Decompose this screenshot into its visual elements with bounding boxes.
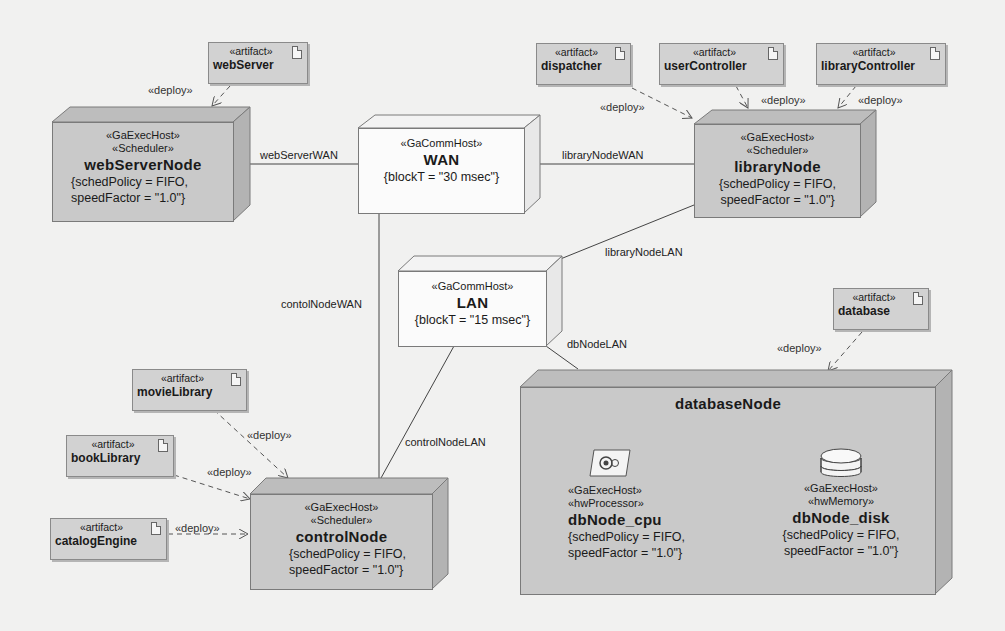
node-prop: {blockT = "30 msec"} [359, 169, 524, 185]
deploy-webServer [212, 86, 230, 106]
artifact-stereotype: «artifact» [664, 46, 779, 59]
stereotype: «GaExecHost» [568, 484, 718, 497]
controlNode-side [432, 478, 448, 589]
document-icon [151, 522, 161, 535]
node-name: libraryNode [695, 157, 860, 176]
wan-top [358, 115, 540, 128]
node-name: WAN [359, 150, 524, 169]
artifact-stereotype: «artifact» [213, 45, 303, 58]
wan-side [524, 115, 540, 213]
lan-top [398, 256, 562, 271]
deploy-label: «deploy» [600, 101, 645, 113]
part-dbNode_disk[interactable]: «GaExecHost» «hwMemory» dbNode_disk {sch… [766, 444, 916, 559]
artifact-libraryController[interactable]: «artifact» libraryController [816, 43, 946, 85]
document-icon [768, 47, 778, 60]
deploy-label: «deploy» [148, 84, 193, 96]
stereotype: «Scheduler» [695, 144, 860, 157]
artifact-catalogEngine[interactable]: «artifact» catalogEngine [50, 518, 167, 560]
artifact-movieLibrary[interactable]: «artifact» movieLibrary [132, 369, 247, 411]
stereotype: «GaExecHost» [766, 482, 916, 495]
part-prop: speedFactor = "1.0"} [568, 545, 718, 561]
webServerNode-side [233, 107, 250, 221]
link-label-libraryNodeLAN: libraryNodeLAN [605, 246, 683, 258]
document-icon [913, 292, 923, 305]
part-prop: speedFactor = "1.0"} [766, 543, 916, 559]
node-prop: {schedPolicy = FIFO, [53, 174, 233, 190]
artifact-name: database [838, 304, 924, 319]
stereotype: «hwMemory» [766, 495, 916, 508]
link-label-webServerWAN: webServerWAN [260, 149, 338, 161]
deploy-label: «deploy» [858, 94, 903, 106]
node-face: «GaCommHost» LAN {blockT = "15 msec"} [398, 271, 547, 347]
deploy-label: «deploy» [247, 429, 292, 441]
disk-icon [818, 444, 864, 480]
stereotype: «Scheduler» [251, 514, 432, 527]
deploy-label: «deploy» [207, 466, 252, 478]
artifact-bookLibrary[interactable]: «artifact» bookLibrary [66, 435, 174, 477]
node-name: controlNode [251, 527, 432, 546]
artifact-name: libraryController [821, 59, 941, 74]
databaseNode-side [935, 370, 952, 594]
webServerNode-top [52, 107, 250, 122]
node-prop: {schedPolicy = FIFO, [695, 176, 860, 192]
node-name: databaseNode [521, 394, 935, 413]
deploy-label: «deploy» [777, 342, 822, 354]
stereotype: «Scheduler» [53, 142, 233, 155]
deploy-label: «deploy» [175, 522, 220, 534]
document-icon [930, 47, 940, 60]
artifact-stereotype: «artifact» [137, 372, 242, 385]
deploy-userController [736, 86, 748, 108]
deploy-database [828, 332, 862, 371]
node-prop: speedFactor = "1.0"} [53, 190, 233, 206]
artifact-database[interactable]: «artifact» database [833, 288, 929, 330]
artifact-userController[interactable]: «artifact» userController [659, 43, 784, 85]
libraryNode-side [860, 110, 876, 217]
artifact-stereotype: «artifact» [71, 438, 169, 451]
artifact-name: catalogEngine [55, 534, 162, 549]
processor-icon [588, 448, 632, 478]
node-prop: speedFactor = "1.0"} [695, 192, 860, 208]
link-label-contolNodeWAN: contolNodeWAN [281, 298, 362, 310]
artifact-stereotype: «artifact» [838, 291, 924, 304]
link-label-controlNodeLAN: controlNodeLAN [405, 436, 486, 448]
link-label-dbNodeLAN: dbNodeLAN [567, 338, 627, 350]
part-prop: {schedPolicy = FIFO, [766, 527, 916, 543]
node-prop: {blockT = "15 msec"} [399, 312, 546, 328]
link-controlNodeLAN [381, 346, 454, 478]
libraryNode-top [694, 110, 876, 124]
node-name: webServerNode [53, 155, 233, 174]
stereotype: «GaExecHost» [251, 501, 432, 514]
stereotype: «hwProcessor» [568, 497, 718, 510]
part-name: dbNode_disk [766, 508, 916, 527]
deploy-label: «deploy» [761, 94, 806, 106]
link-label-libraryNodeWAN: libraryNodeWAN [562, 149, 644, 161]
artifact-dispatcher[interactable]: «artifact» dispatcher [536, 43, 631, 85]
stereotype: «GaExecHost» [53, 129, 233, 142]
node-prop: {schedPolicy = FIFO, [251, 546, 432, 562]
artifact-stereotype: «artifact» [821, 46, 941, 59]
artifact-name: userController [664, 59, 779, 74]
stereotype: «GaExecHost» [695, 131, 860, 144]
databaseNode-top [520, 370, 952, 387]
document-icon [158, 439, 168, 452]
node-prop: speedFactor = "1.0"} [251, 562, 432, 578]
lan-side [546, 256, 562, 346]
artifact-stereotype: «artifact» [55, 521, 162, 534]
controlNode-top [250, 478, 448, 494]
node-face: «GaExecHost» «Scheduler» webServerNode {… [52, 122, 234, 222]
document-icon [615, 47, 625, 60]
document-icon [292, 46, 302, 59]
node-face: «GaCommHost» WAN {blockT = "30 msec"} [358, 128, 525, 214]
artifact-name: webServer [213, 58, 303, 73]
artifact-name: dispatcher [541, 59, 626, 74]
stereotype: «GaCommHost» [359, 137, 524, 150]
deploy-bookLibrary [174, 475, 250, 499]
document-icon [231, 373, 241, 386]
artifact-name: bookLibrary [71, 451, 169, 466]
artifact-webServer[interactable]: «artifact» webServer [208, 42, 308, 84]
stereotype: «GaCommHost» [399, 280, 546, 293]
part-name: dbNode_cpu [568, 510, 718, 529]
artifact-stereotype: «artifact» [541, 46, 626, 59]
part-prop: {schedPolicy = FIFO, [568, 529, 718, 545]
part-dbNode_cpu[interactable]: «GaExecHost» «hwProcessor» dbNode_cpu {s… [568, 448, 718, 561]
